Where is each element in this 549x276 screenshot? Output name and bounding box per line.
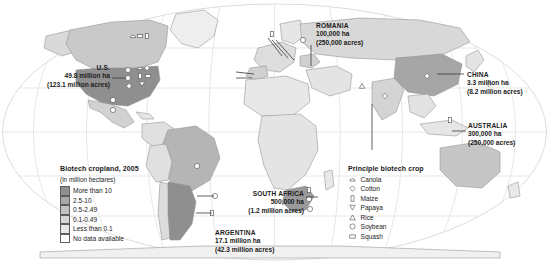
legend-swatch-less-than-0-1 <box>60 224 70 234</box>
map-symbol-canola <box>137 67 142 69</box>
map-symbol-squash <box>137 34 142 37</box>
map-symbol-maize <box>271 31 274 36</box>
callout-australia-country: AUSTRALIA <box>468 122 515 130</box>
callout-australia-acres: (250,000 acres) <box>468 139 515 147</box>
country-north-africa <box>244 76 310 116</box>
callout-romania-hectares: 100,000 ha <box>316 30 363 38</box>
callout-south-africa-hectares: 500,000 ha <box>228 198 304 206</box>
legend-crops-title: Principle biotech crop <box>348 164 424 174</box>
legend-item-0-5-to-2-49[interactable]: 0.5-2.49 <box>60 205 139 215</box>
legend-swatch-no-data <box>60 234 70 244</box>
callout-romania-acres: (250,000 acres) <box>316 39 363 47</box>
legend-item-maize[interactable]: Maize <box>348 194 424 204</box>
soybean-icon <box>348 222 357 231</box>
legend-item-canola[interactable]: Canola <box>348 175 424 185</box>
legend-label-canola: Canola <box>361 175 382 185</box>
map-symbol-soybean <box>125 67 130 72</box>
country-canada <box>66 20 168 70</box>
legend-swatch-0-5-to-2-49 <box>60 205 70 215</box>
callout-south-africa-country: SOUTH AFRICA <box>228 190 304 198</box>
map-symbol-soybean <box>125 75 130 80</box>
legend-swatch-more-than-10 <box>60 186 70 196</box>
map-symbol-canola <box>130 35 135 37</box>
legend-biotech-cropland: Biotech cropland, 2005 (in million hecta… <box>60 164 139 243</box>
callout-china-acres: (8.2 million acres) <box>467 88 523 96</box>
legend-item-0-1-to-0-49[interactable]: 0.1-0.49 <box>60 215 139 225</box>
legend-label-cotton: Cotton <box>361 184 380 194</box>
map-symbol-maize <box>449 117 452 122</box>
country-madagascar <box>324 170 334 190</box>
legend-item-more-than-10[interactable]: More than 10 <box>60 186 139 196</box>
legend-cropland-title: Biotech cropland, 2005 <box>60 164 139 174</box>
legend-item-rice[interactable]: Rice <box>348 213 424 223</box>
legend-label-2-5-to-10: 2.5-10 <box>73 196 92 206</box>
legend-item-less-than-0-1[interactable]: Less than 0.1 <box>60 224 139 234</box>
callout-argentina-country: ARGENTINA <box>215 229 274 237</box>
map-symbol-maize <box>308 187 311 192</box>
legend-item-papaya[interactable]: Papaya <box>348 203 424 213</box>
legend-item-cotton[interactable]: Cotton <box>348 184 424 194</box>
callout-south-africa-acres: (1.2 million acres) <box>228 207 304 215</box>
cotton-icon <box>348 184 357 193</box>
papaya-icon <box>348 203 357 212</box>
legend-label-rice: Rice <box>361 213 374 223</box>
squash-icon <box>348 232 357 241</box>
callout-china: CHINA 3.3 million ha (8.2 million acres) <box>467 71 523 96</box>
legend-item-2-5-to-10[interactable]: 2.5-10 <box>60 196 139 206</box>
callout-us: U.S. 49.8 million ha (123.1 million acre… <box>14 64 110 89</box>
map-symbol-soybean <box>110 97 115 102</box>
legend-item-squash[interactable]: Squash <box>348 232 424 242</box>
legend-swatch-2-5-to-10 <box>60 196 70 206</box>
legend-item-no-data[interactable]: No data available <box>60 234 139 244</box>
callout-romania-country: ROMANIA <box>316 22 363 30</box>
callout-us-acres: (123.1 million acres) <box>14 81 110 89</box>
legend-swatch-0-1-to-0-49 <box>60 215 70 225</box>
callout-romania: ROMANIA 100,000 ha (250,000 acres) <box>316 22 363 47</box>
legend-label-papaya: Papaya <box>361 203 383 213</box>
callout-argentina-acres: (42.3 million acres) <box>215 246 274 254</box>
legend-label-no-data: No data available <box>73 234 124 244</box>
map-symbol-soybean <box>307 206 312 211</box>
callout-us-country: U.S. <box>14 64 110 72</box>
map-symbol-soybean <box>110 107 115 112</box>
legend-label-0-5-to-2-49: 0.5-2.49 <box>73 205 97 215</box>
legend-label-more-than-10: More than 10 <box>73 186 112 196</box>
legend-label-less-than-0-1: Less than 0.1 <box>73 224 113 234</box>
callout-us-hectares: 49.8 million ha <box>14 72 110 80</box>
callout-argentina-hectares: 17.1 million ha <box>215 237 274 245</box>
maize-icon <box>348 194 357 203</box>
legend-label-0-1-to-0-49: 0.1-0.49 <box>73 215 97 225</box>
legend-cropland-subtitle: (in million hectares) <box>60 175 139 185</box>
callout-china-hectares: 3.3 million ha <box>467 79 523 87</box>
map-symbol-maize <box>139 73 142 78</box>
callout-australia-hectares: 300,000 ha <box>468 130 515 138</box>
biotech-cropland-world-map: U.S. 49.8 million ha (123.1 million acre… <box>0 0 549 276</box>
map-symbol-soybean <box>300 37 305 42</box>
legend-label-maize: Maize <box>361 194 379 204</box>
callout-argentina: ARGENTINA 17.1 million ha (42.3 million … <box>215 229 274 254</box>
map-symbol-squash <box>145 74 150 77</box>
canola-icon <box>348 175 357 184</box>
legend-label-squash: Squash <box>361 232 383 242</box>
map-symbol-soybean <box>194 163 199 168</box>
legend-label-soybean: Soybean <box>361 222 387 232</box>
legend-principle-biotech-crop: Principle biotech crop Canola Cotton Mai… <box>348 164 424 241</box>
callout-south-africa: SOUTH AFRICA 500,000 ha (1.2 million acr… <box>228 190 304 215</box>
map-symbol-maize <box>146 33 149 38</box>
callout-china-country: CHINA <box>467 71 523 79</box>
callout-australia: AUSTRALIA 300,000 ha (250,000 acres) <box>468 122 515 147</box>
rice-icon <box>348 213 357 222</box>
legend-item-soybean[interactable]: Soybean <box>348 222 424 232</box>
